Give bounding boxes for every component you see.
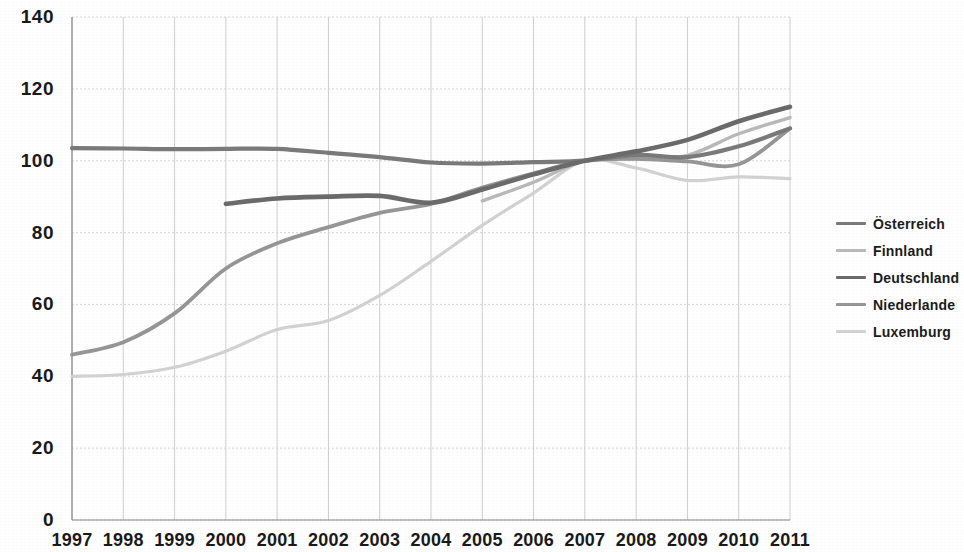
x-axis-tick-label: 2004: [411, 530, 452, 551]
legend-color-swatch: [836, 276, 866, 280]
x-axis-tick-label: 2006: [513, 530, 554, 551]
x-axis-tick-label: 2003: [359, 530, 400, 551]
x-axis-tick-label: 1999: [154, 530, 195, 551]
y-axis-tick-label: 0: [8, 509, 54, 531]
x-axis-tick-label: 2007: [564, 530, 605, 551]
legend-item[interactable]: Luxemburg: [836, 318, 964, 345]
x-axis-tick-label: 2011: [770, 530, 810, 551]
y-axis-tick-label: 80: [8, 222, 54, 244]
x-axis-tick-label: 2001: [257, 530, 298, 551]
x-axis-tick-label: 2010: [718, 530, 759, 551]
y-axis-tick-label: 120: [8, 78, 54, 100]
y-axis-tick-label: 60: [8, 293, 54, 315]
legend-item-label: Niederlande: [873, 297, 955, 313]
legend-item-label: Luxemburg: [873, 324, 951, 340]
x-axis-tick-label: 2008: [616, 530, 657, 551]
x-axis-tick-label: 1998: [103, 530, 144, 551]
y-axis-tick-label: 100: [8, 150, 54, 172]
legend-color-swatch: [836, 303, 866, 306]
y-axis-tick-label: 40: [8, 365, 54, 387]
legend-item-label: Finnland: [873, 243, 933, 259]
legend-item[interactable]: Finnland: [836, 237, 964, 264]
legend-item-label: Deutschland: [873, 270, 959, 286]
legend-color-swatch: [836, 222, 866, 225]
x-axis-tick-label: 2005: [462, 530, 503, 551]
legend-item[interactable]: Deutschland: [836, 264, 964, 291]
line-chart: 020406080100120140 199719981999200020012…: [0, 0, 964, 552]
x-axis-tick-label: 2000: [205, 530, 246, 551]
legend-color-swatch: [836, 330, 866, 332]
chart-canvas: [0, 0, 964, 552]
legend-item[interactable]: Österreich: [836, 210, 964, 237]
y-axis-tick-label: 140: [8, 6, 54, 28]
legend-color-swatch: [836, 249, 866, 251]
legend-item[interactable]: Niederlande: [836, 291, 964, 318]
x-axis-tick-label: 2009: [667, 530, 708, 551]
x-axis-tick-label: 1997: [52, 530, 93, 551]
y-axis-tick-label: 20: [8, 437, 54, 459]
legend-item-label: Österreich: [873, 216, 945, 232]
x-axis-tick-label: 2002: [308, 530, 349, 551]
chart-legend: ÖsterreichFinnlandDeutschlandNiederlande…: [836, 210, 964, 345]
